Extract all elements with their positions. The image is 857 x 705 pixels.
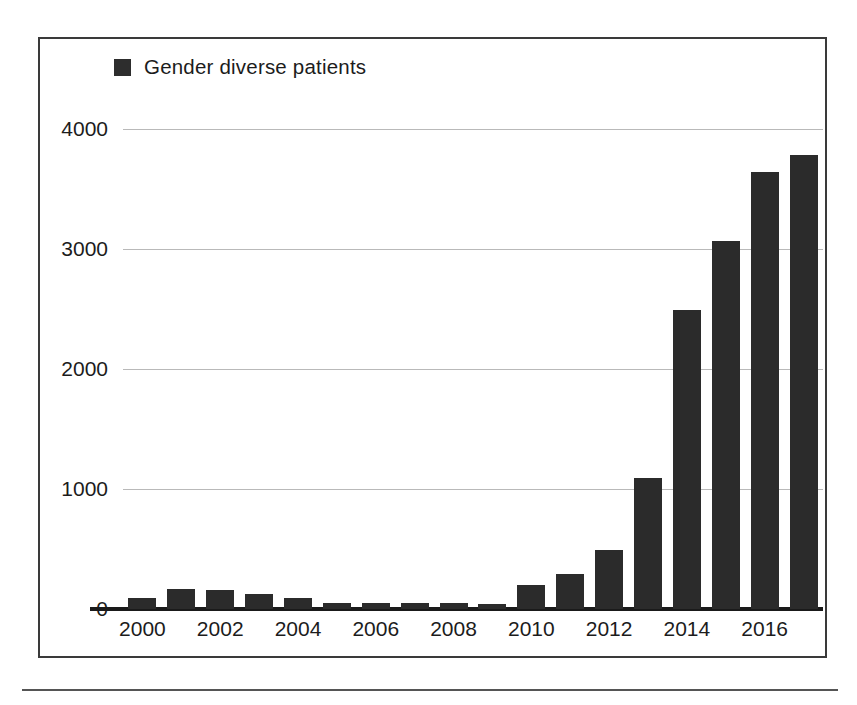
x-axis-tick-label: 2012 bbox=[586, 617, 633, 641]
x-axis-tick-label: 2016 bbox=[741, 617, 788, 641]
x-axis-tick-label: 2014 bbox=[664, 617, 711, 641]
bar-2013[interactable] bbox=[634, 478, 662, 609]
x-axis-tick-label: 2010 bbox=[508, 617, 555, 641]
x-axis-tick-label: 2000 bbox=[119, 617, 166, 641]
bar-2007[interactable] bbox=[401, 603, 429, 609]
bar-2008[interactable] bbox=[440, 603, 468, 609]
x-axis-tick-label: 2004 bbox=[275, 617, 322, 641]
chart-frame: Gender diverse patients 0100020003000400… bbox=[38, 37, 827, 658]
bar-2006[interactable] bbox=[362, 603, 390, 609]
bottom-rule-divider bbox=[22, 689, 838, 691]
bar-2010[interactable] bbox=[517, 585, 545, 609]
bar-2003[interactable] bbox=[245, 594, 273, 609]
bar-2015[interactable] bbox=[712, 241, 740, 609]
x-axis-tick-label: 2006 bbox=[352, 617, 399, 641]
bar-2000[interactable] bbox=[128, 598, 156, 609]
plot-area: 01000200030004000 2000200220042006200820… bbox=[40, 39, 825, 656]
bar-2017[interactable] bbox=[790, 155, 818, 609]
bar-2011[interactable] bbox=[556, 574, 584, 609]
bar-2004[interactable] bbox=[284, 598, 312, 609]
bar-2009[interactable] bbox=[478, 604, 506, 609]
bar-2001[interactable] bbox=[167, 589, 195, 609]
bar-2005[interactable] bbox=[323, 603, 351, 609]
bar-2002[interactable] bbox=[206, 590, 234, 609]
x-axis-tick-label: 2008 bbox=[430, 617, 477, 641]
bar-2012[interactable] bbox=[595, 550, 623, 609]
bars-group bbox=[40, 39, 825, 656]
x-axis-tick-label: 2002 bbox=[197, 617, 244, 641]
bar-2016[interactable] bbox=[751, 172, 779, 609]
figure-container: Gender diverse patients 0100020003000400… bbox=[0, 0, 857, 705]
bar-2014[interactable] bbox=[673, 310, 701, 609]
